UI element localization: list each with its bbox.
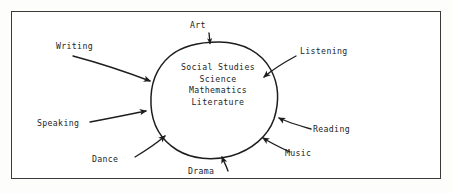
arrow-drama <box>222 157 228 171</box>
label-speaking: Speaking <box>37 118 79 128</box>
label-drama: Drama <box>188 166 214 176</box>
arrow-dance <box>135 136 165 157</box>
central-subject-list: Social Studies Science Mathematics Liter… <box>158 62 278 110</box>
arrow-writing <box>73 56 150 81</box>
arrow-speaking <box>90 111 146 122</box>
label-dance: Dance <box>92 154 118 164</box>
label-reading: Reading <box>313 124 350 134</box>
label-art: Art <box>190 20 206 30</box>
central-subject-line-4: Literature <box>158 97 278 107</box>
label-music: Music <box>285 148 311 158</box>
label-listening: Listening <box>300 46 348 56</box>
central-subject-line-1: Social Studies <box>158 62 278 72</box>
diagram-page: Social Studies Science Mathematics Liter… <box>0 0 453 193</box>
central-subject-line-3: Mathematics <box>158 85 278 95</box>
arrow-reading <box>279 118 311 129</box>
label-writing: Writing <box>56 41 93 51</box>
central-subject-line-2: Science <box>158 74 278 84</box>
